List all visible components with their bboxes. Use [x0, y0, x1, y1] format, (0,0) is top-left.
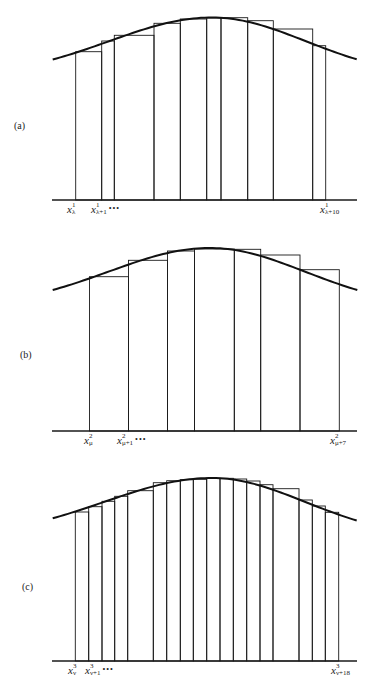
step-bar	[167, 481, 181, 661]
step-bar	[168, 251, 195, 431]
label-indices: 3ν	[73, 663, 77, 677]
label-subscript: λ+10	[325, 209, 339, 216]
label-indices: 2μ	[89, 433, 93, 447]
label-subscript: ν+1	[90, 670, 101, 677]
step-bar	[75, 512, 88, 661]
step-bar	[90, 277, 129, 431]
label-indices: 3ν+18	[336, 663, 350, 677]
panel-a-coarse-partition	[52, 18, 357, 201]
step-bar	[248, 21, 274, 200]
step-bar	[260, 485, 273, 661]
step-bar	[261, 255, 300, 431]
step-bar	[115, 496, 128, 661]
step-function-approximation-diagram	[0, 0, 381, 689]
step-bar	[221, 18, 248, 200]
step-bar	[247, 481, 260, 661]
step-bar	[76, 52, 102, 200]
label-indices: 2μ+1	[122, 433, 133, 447]
step-bar	[180, 19, 206, 200]
step-bar	[299, 500, 312, 661]
step-bar	[114, 35, 154, 200]
step-bar	[312, 506, 325, 661]
step-bar	[207, 18, 221, 200]
panel-label-c: (c)	[22, 581, 33, 592]
step-bar	[300, 270, 339, 431]
label-subscript: μ+1	[122, 440, 133, 447]
label-subscript: μ	[89, 440, 93, 447]
partition-point-label: x1λ	[67, 204, 75, 218]
partition-point-label: x2μ+7	[330, 435, 346, 449]
step-bar	[220, 478, 233, 661]
panel-b-partition	[52, 248, 357, 431]
label-indices: 3ν+1	[90, 663, 101, 677]
label-indices: 2μ+7	[335, 433, 346, 447]
panel-c-fine-partition	[52, 478, 357, 661]
label-indices: 1λ+1	[96, 202, 107, 216]
step-bar	[102, 501, 115, 661]
step-bar	[195, 249, 235, 431]
step-bar	[234, 249, 260, 431]
step-bar	[153, 483, 166, 661]
partition-point-label: x1λ+10	[320, 204, 339, 218]
step-bar	[180, 480, 193, 661]
step-bar	[273, 489, 299, 661]
step-bar	[193, 479, 206, 661]
ellipsis: •••	[109, 204, 120, 213]
step-bar	[207, 478, 220, 661]
partition-point-label: x3ν	[68, 665, 76, 679]
label-subscript: μ+7	[335, 440, 346, 447]
step-bar	[102, 41, 115, 200]
label-indices: 1λ	[72, 202, 76, 216]
ellipsis: •••	[103, 665, 114, 674]
partition-point-label: x2μ+1•••	[117, 435, 147, 449]
step-bar	[129, 260, 168, 431]
step-bar	[325, 512, 338, 661]
step-bar	[273, 29, 312, 200]
panel-label-a: (a)	[14, 120, 25, 131]
label-subscript: λ+1	[96, 209, 107, 216]
partition-point-label: x3ν+1•••	[85, 665, 114, 679]
label-subscript: ν+18	[336, 670, 350, 677]
partition-point-label: x3ν+18	[331, 665, 350, 679]
step-bar	[154, 23, 180, 200]
label-subscript: ν	[73, 670, 77, 677]
ellipsis: •••	[135, 435, 146, 444]
function-curve	[53, 248, 358, 290]
label-indices: 1λ+10	[325, 202, 339, 216]
function-curve	[53, 478, 357, 521]
panel-label-b: (b)	[20, 349, 32, 360]
step-bar	[89, 507, 102, 661]
partition-point-label: x2μ	[84, 435, 93, 449]
label-subscript: λ	[72, 209, 76, 216]
step-bar	[233, 479, 246, 661]
step-bar	[128, 491, 154, 661]
partition-point-label: x1λ+1•••	[91, 204, 120, 218]
function-curve	[53, 18, 357, 60]
step-bar	[313, 46, 326, 200]
